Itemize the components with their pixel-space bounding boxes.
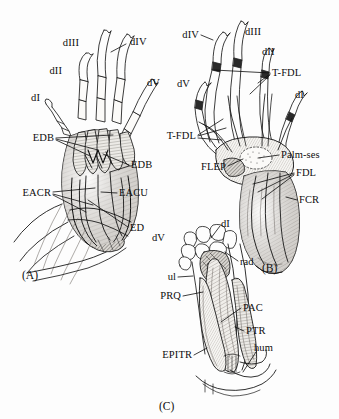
label-dii: dII (49, 66, 62, 77)
label-hum: hum (254, 343, 273, 354)
label-edb: EDB (33, 133, 54, 144)
anatomical-figure: dIIIdIVdIIdVdIEDBEDBEACREACUED dIVdIIIdI… (0, 0, 339, 419)
label-fdl: FDL (296, 168, 316, 179)
label-di: dI (295, 90, 304, 101)
label-pac: PAC (243, 303, 263, 314)
label-ed: ED (130, 223, 144, 234)
label-ul: ul (168, 272, 176, 283)
label-dii: dII (262, 47, 275, 58)
label-edb: EDB (131, 160, 152, 171)
label-dv: dV (147, 78, 160, 89)
label-t-fdl: T-FDL (167, 131, 196, 142)
label-t-fdl: T-FDL (272, 68, 301, 79)
label-div: dIV (182, 30, 199, 41)
label-div: dIV (130, 37, 147, 48)
label-diii: dIII (245, 27, 261, 38)
label-prq: PRQ (160, 291, 181, 302)
label-flep: FLEP (201, 162, 226, 173)
label-fcr: FCR (299, 195, 319, 206)
label-eacu: EACU (119, 188, 148, 199)
label-rad: rad (240, 257, 254, 268)
label-diii: dIII (63, 38, 79, 49)
panel-tag-c: (C) (159, 400, 174, 412)
label-dv: dV (152, 233, 165, 244)
label-epitr: EPITR (162, 350, 192, 361)
panel-tag-b: (B) (262, 262, 277, 274)
label-di: dI (221, 219, 230, 230)
label-ptr: PTR (246, 326, 266, 337)
label-di: dI (31, 93, 40, 104)
label-palm-ses: Palm-ses (281, 150, 320, 161)
label-eacr: EACR (23, 188, 51, 199)
panel-tag-a: (A) (22, 269, 38, 281)
label-dv: dV (177, 79, 190, 90)
